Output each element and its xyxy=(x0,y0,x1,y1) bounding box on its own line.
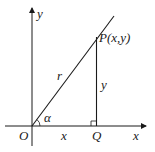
right-angle-mark xyxy=(91,121,97,126)
angle-alpha-label: α xyxy=(44,111,51,124)
vertical-leg-y-label: y xyxy=(101,78,107,91)
horizontal-leg-x-label: x xyxy=(61,129,67,142)
origin-o-label: O xyxy=(19,129,28,142)
trig-diagram: y P(x,y) r y α O x Q x xyxy=(0,0,155,152)
point-q-label: Q xyxy=(92,129,101,142)
x-axis-label: x xyxy=(133,129,139,142)
point-p-label: P(x,y) xyxy=(99,31,130,44)
hypotenuse-r-label: r xyxy=(57,69,62,82)
y-axis-label: y xyxy=(37,7,43,20)
angle-arc xyxy=(37,120,40,126)
